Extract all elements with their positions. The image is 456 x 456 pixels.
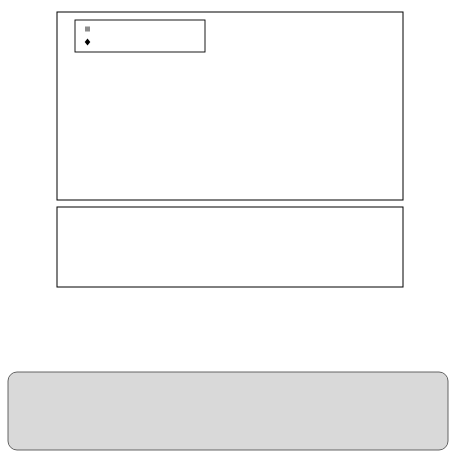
bottom-plot-background [57,207,403,287]
figure-root [0,0,456,456]
detail-panel [8,372,448,450]
legend-box [75,20,205,52]
chart-figure [0,0,456,456]
detail-panel-background [8,372,448,450]
legend-marker-arrival-rate [85,27,90,32]
top-panel [57,12,403,200]
bottom-panel [57,207,403,287]
chart-legend [75,20,205,52]
